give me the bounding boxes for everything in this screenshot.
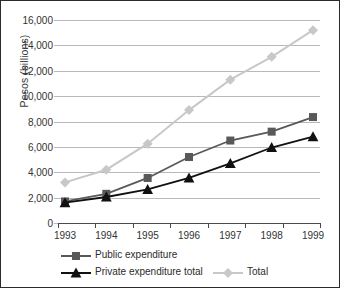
data-point-marker bbox=[101, 165, 111, 175]
x-tick-label: 1998 bbox=[261, 230, 283, 241]
data-point-marker bbox=[308, 131, 319, 141]
legend-item-label: Public expenditure bbox=[95, 249, 177, 260]
y-tick-label: 2,000 bbox=[28, 192, 53, 203]
x-axis-line bbox=[58, 223, 320, 224]
x-tick-label: 1994 bbox=[95, 230, 117, 241]
y-tick-label: 6,000 bbox=[28, 141, 53, 152]
x-tick-mark bbox=[283, 223, 284, 228]
data-point-marker bbox=[185, 153, 193, 161]
y-tick-label: 16,000 bbox=[22, 15, 53, 26]
legend-item-label: Private expenditure total bbox=[95, 266, 203, 277]
data-point-marker bbox=[225, 158, 236, 168]
data-point-marker bbox=[60, 177, 70, 187]
data-point-marker bbox=[268, 128, 276, 136]
x-tick-mark bbox=[170, 223, 171, 228]
x-tick-mark bbox=[320, 223, 321, 228]
x-tick-mark bbox=[208, 223, 209, 228]
legend-item-label: Total bbox=[247, 266, 268, 277]
y-tick-label: 14,000 bbox=[22, 40, 53, 51]
legend-swatch-icon bbox=[61, 248, 91, 260]
x-tick-mark bbox=[245, 223, 246, 228]
data-point-marker bbox=[223, 268, 233, 278]
y-tick-label: 12,000 bbox=[22, 65, 53, 76]
x-tick-mark bbox=[133, 223, 134, 228]
x-tick-label: 1999 bbox=[302, 230, 324, 241]
series-2 bbox=[60, 25, 318, 187]
y-tick-label: 0 bbox=[47, 218, 53, 229]
data-point-marker bbox=[226, 137, 234, 145]
legend-item-square[interactable]: Public expenditure bbox=[61, 248, 177, 260]
x-tick-mark bbox=[58, 223, 59, 228]
chart-figure: Pesos (billions) 02,0004,0006,0008,00010… bbox=[0, 0, 340, 288]
x-tick-label: 1997 bbox=[219, 230, 241, 241]
y-tick-label: 8,000 bbox=[28, 116, 53, 127]
y-tick-label: 10,000 bbox=[22, 91, 53, 102]
plot-area: 02,0004,0006,0008,00010,00012,00014,0001… bbox=[58, 20, 320, 223]
data-point-marker bbox=[309, 113, 317, 121]
series-0 bbox=[61, 113, 317, 205]
x-tick-label: 1995 bbox=[137, 230, 159, 241]
data-point-marker bbox=[308, 25, 318, 35]
legend-item-diamond[interactable]: Total bbox=[213, 265, 268, 277]
data-point-marker bbox=[144, 174, 152, 182]
x-tick-mark bbox=[95, 223, 96, 228]
chart-legend: Public expenditurePrivate expenditure to… bbox=[61, 248, 336, 284]
data-point-marker bbox=[267, 52, 277, 62]
x-tick-label: 1993 bbox=[54, 230, 76, 241]
x-tick-label: 1996 bbox=[178, 230, 200, 241]
data-point-marker bbox=[72, 252, 80, 260]
y-tick-label: 4,000 bbox=[28, 167, 53, 178]
legend-item-triangle[interactable]: Private expenditure total bbox=[61, 265, 203, 277]
legend-swatch-icon bbox=[61, 265, 91, 277]
legend-swatch-icon bbox=[213, 265, 243, 277]
series-layer bbox=[58, 20, 320, 223]
